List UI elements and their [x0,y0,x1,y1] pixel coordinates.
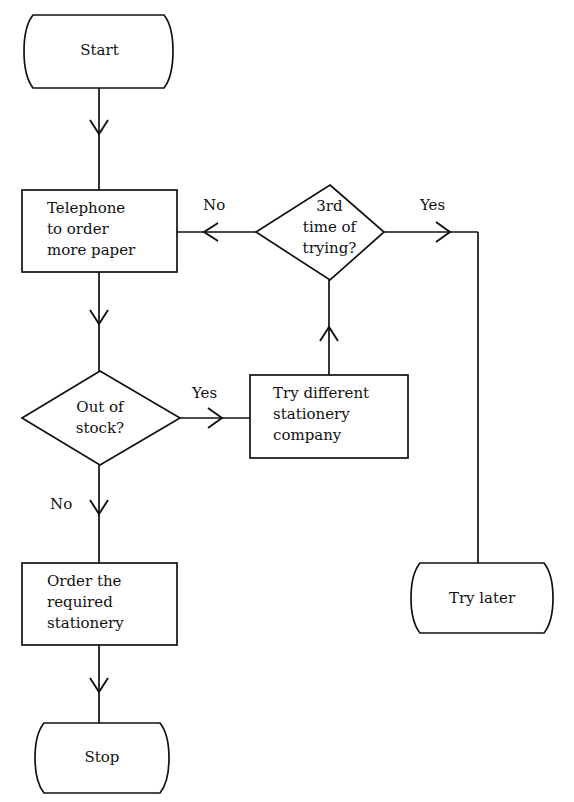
telephone-process-shape[interactable] [22,190,177,272]
flowchart-svg [0,0,574,802]
edge-label-third-time-no: No [203,196,225,214]
edge-third-time-no-to-telephone [177,223,256,241]
try-later-terminator-shape[interactable] [411,563,553,633]
edge-out-of-stock-yes-to-try-company [180,408,250,428]
edge-try-company-to-third-time [320,280,338,375]
stop-terminator-shape[interactable] [35,723,169,793]
start-terminator-shape[interactable] [24,15,173,88]
order-process-shape[interactable] [22,563,177,645]
edge-label-out-of-stock-no: No [50,495,72,513]
edge-out-of-stock-no-to-order [90,465,108,563]
flowchart-canvas: Start Telephone to order more paper Out … [0,0,574,802]
third-time-decision-shape[interactable] [256,185,384,280]
try-company-process-shape[interactable] [250,375,408,458]
edge-label-out-of-stock-yes: Yes [192,384,217,402]
edge-start-to-telephone [90,88,108,190]
out-of-stock-decision-shape[interactable] [22,371,180,465]
edge-telephone-to-out-of-stock [90,272,108,371]
edge-order-to-stop [90,645,108,723]
edge-label-third-time-yes: Yes [420,196,445,214]
